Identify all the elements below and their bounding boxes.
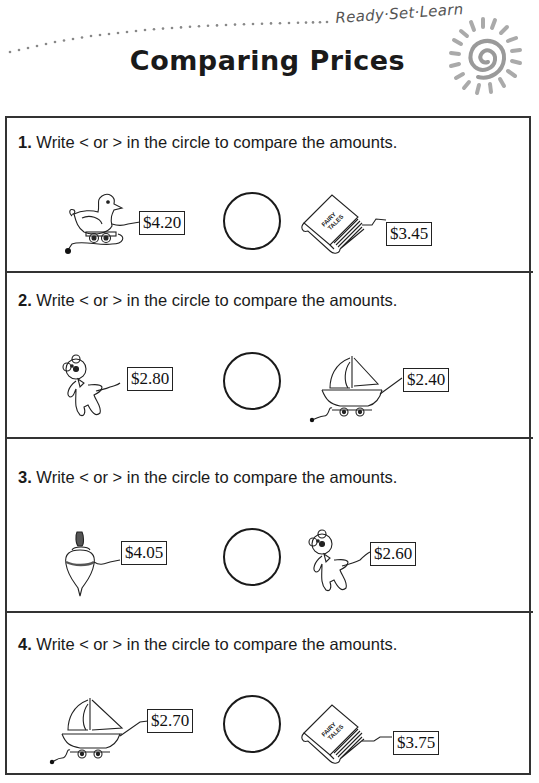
problem-3-instruction: 3. Write < or > in the circle to compare… xyxy=(18,468,397,487)
price-tag: $2.40 xyxy=(403,368,449,392)
problem-1-instruction: 1. Write < or > in the circle to compare… xyxy=(18,133,397,152)
answer-circle-1[interactable] xyxy=(223,192,281,250)
problem-2-instruction: 2. Write < or > in the circle to compare… xyxy=(18,291,397,310)
problem-number: 3. xyxy=(18,468,32,486)
section-divider xyxy=(5,437,533,439)
price-tag: $2.60 xyxy=(370,542,416,566)
instruction-text: Write < or > in the circle to compare th… xyxy=(36,635,397,653)
instruction-text: Write < or > in the circle to compare th… xyxy=(36,291,397,309)
page-title-text: Comparing Prices xyxy=(130,45,405,76)
price-tag: $2.80 xyxy=(127,367,173,391)
book-icon: FAIRY TALES xyxy=(300,703,395,773)
instruction-text: Write < or > in the circle to compare th… xyxy=(36,468,397,486)
page-title: Comparing Prices xyxy=(0,45,539,76)
pull-toy-boat-icon xyxy=(60,696,150,764)
problem-number: 2. xyxy=(18,291,32,309)
book-icon: FAIRY TALES xyxy=(300,193,390,255)
section-divider xyxy=(5,271,533,273)
teddy-bear-icon xyxy=(308,530,378,595)
answer-circle-3[interactable] xyxy=(223,528,281,586)
instruction-text: Write < or > in the circle to compare th… xyxy=(36,133,397,151)
price-tag: $3.75 xyxy=(393,731,439,755)
answer-circle-2[interactable] xyxy=(223,352,281,410)
section-divider xyxy=(5,611,533,613)
answer-circle-4[interactable] xyxy=(223,695,281,753)
price-tag: $4.05 xyxy=(121,541,167,565)
pull-toy-boat-icon xyxy=(310,354,405,422)
price-tag: $2.70 xyxy=(147,709,193,733)
price-tag: $4.20 xyxy=(139,211,185,235)
price-tag: $3.45 xyxy=(386,222,432,246)
problem-number: 4. xyxy=(18,635,32,653)
teddy-bear-icon xyxy=(62,355,132,420)
pull-toy-duck-icon xyxy=(62,188,142,248)
spinning-top-icon xyxy=(62,532,122,602)
problem-4-instruction: 4. Write < or > in the circle to compare… xyxy=(18,635,397,654)
problem-number: 1. xyxy=(18,133,32,151)
